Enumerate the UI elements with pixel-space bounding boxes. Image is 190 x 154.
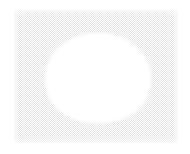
white-blob bbox=[48, 36, 148, 120]
image-description: A light grey finely-dithered rectangular… bbox=[0, 0, 1, 1]
image-canvas: A light grey finely-dithered rectangular… bbox=[0, 0, 190, 154]
